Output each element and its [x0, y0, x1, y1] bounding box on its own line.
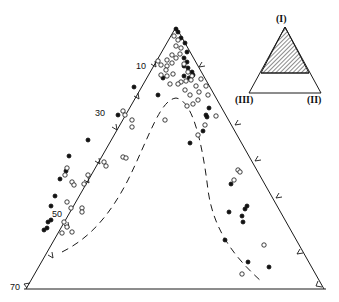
filled-data-point: [229, 182, 233, 186]
filled-data-point: [49, 204, 53, 208]
open-data-point: [232, 178, 236, 182]
filled-data-point: [182, 56, 186, 60]
filled-data-point: [246, 260, 250, 264]
filled-data-point: [86, 138, 90, 142]
open-data-point: [188, 93, 192, 97]
open-data-point: [196, 98, 200, 102]
open-data-point: [123, 113, 127, 117]
open-data-point: [182, 62, 186, 66]
filled-data-point: [176, 30, 180, 34]
inset-label-II: (II): [307, 94, 321, 106]
open-data-point: [179, 46, 183, 50]
open-data-point: [82, 182, 86, 186]
open-data-point: [130, 125, 134, 129]
open-data-point: [214, 114, 218, 118]
filled-data-point: [183, 41, 187, 45]
open-data-point: [65, 200, 69, 204]
open-data-point: [189, 78, 193, 82]
open-data-point: [186, 70, 190, 74]
open-data-point: [197, 90, 201, 94]
open-data-point: [70, 230, 74, 234]
open-data-points: [60, 34, 266, 276]
filled-data-point: [207, 106, 211, 110]
filled-data-point: [223, 238, 227, 242]
inset-diagram: (I) (III) (II): [235, 13, 321, 106]
filled-data-point: [188, 141, 192, 145]
filled-data-point: [243, 207, 247, 211]
filled-data-point: [267, 265, 271, 269]
tick-label-30: 30: [95, 108, 105, 118]
ternary-diagram: 10 30 50 70 (I) (III) (II): [0, 0, 339, 302]
open-data-point: [164, 68, 168, 72]
open-data-point: [199, 77, 203, 81]
open-data-point: [194, 84, 198, 88]
open-data-point: [130, 118, 134, 122]
open-data-point: [174, 56, 178, 60]
open-data-point: [62, 220, 66, 224]
open-data-point: [185, 104, 189, 108]
open-data-point: [176, 82, 180, 86]
open-data-point: [163, 118, 167, 122]
filled-data-point: [58, 177, 62, 181]
open-data-point: [204, 84, 208, 88]
open-data-point: [184, 79, 188, 83]
open-data-point: [80, 210, 84, 214]
filled-data-point: [201, 129, 205, 133]
open-data-point: [165, 58, 169, 62]
filled-data-point: [227, 210, 231, 214]
open-data-point: [72, 183, 76, 187]
open-data-point: [156, 59, 160, 63]
filled-data-point: [205, 115, 209, 119]
open-data-point: [168, 82, 172, 86]
open-data-point: [170, 53, 174, 57]
open-data-point: [196, 133, 200, 137]
inset-hatched-region: [261, 27, 309, 73]
filled-data-point: [42, 228, 46, 232]
open-data-point: [174, 44, 178, 48]
open-data-point: [65, 166, 69, 170]
open-data-point: [86, 173, 90, 177]
open-data-point: [69, 206, 73, 210]
open-data-point: [159, 63, 163, 67]
filled-data-point: [241, 220, 245, 224]
open-data-point: [60, 231, 64, 235]
open-data-point: [172, 34, 176, 38]
filled-data-point: [182, 74, 186, 78]
filled-data-point: [116, 113, 120, 117]
inset-label-I: (I): [276, 13, 287, 25]
open-data-point: [159, 73, 163, 77]
filled-data-point: [53, 194, 57, 198]
inset-label-III: (III): [235, 94, 253, 106]
tick-label-50: 50: [52, 209, 62, 219]
open-data-point: [104, 164, 108, 168]
open-data-point: [124, 156, 128, 160]
open-data-point: [65, 225, 69, 229]
open-data-point: [170, 61, 174, 65]
open-data-point: [191, 102, 195, 106]
tick-label-70: 70: [10, 282, 20, 292]
filled-data-point: [46, 220, 50, 224]
open-data-point: [203, 123, 207, 127]
filled-data-point: [185, 50, 189, 54]
open-data-point: [171, 72, 175, 76]
left-axis-labels: 10 30 50 70: [10, 61, 146, 292]
tick-label-10: 10: [136, 61, 146, 71]
open-data-point: [183, 88, 187, 92]
open-data-point: [178, 52, 182, 56]
open-data-point: [63, 173, 67, 177]
open-data-point: [176, 38, 180, 42]
filled-data-point: [132, 85, 136, 89]
filled-data-point: [67, 154, 71, 158]
open-data-point: [262, 243, 266, 247]
open-data-point: [165, 74, 169, 78]
open-data-point: [238, 170, 242, 174]
open-data-point: [206, 93, 210, 97]
filled-data-point: [156, 93, 160, 97]
open-data-point: [240, 272, 244, 276]
filled-data-point: [240, 214, 244, 218]
filled-data-points: [42, 27, 271, 269]
